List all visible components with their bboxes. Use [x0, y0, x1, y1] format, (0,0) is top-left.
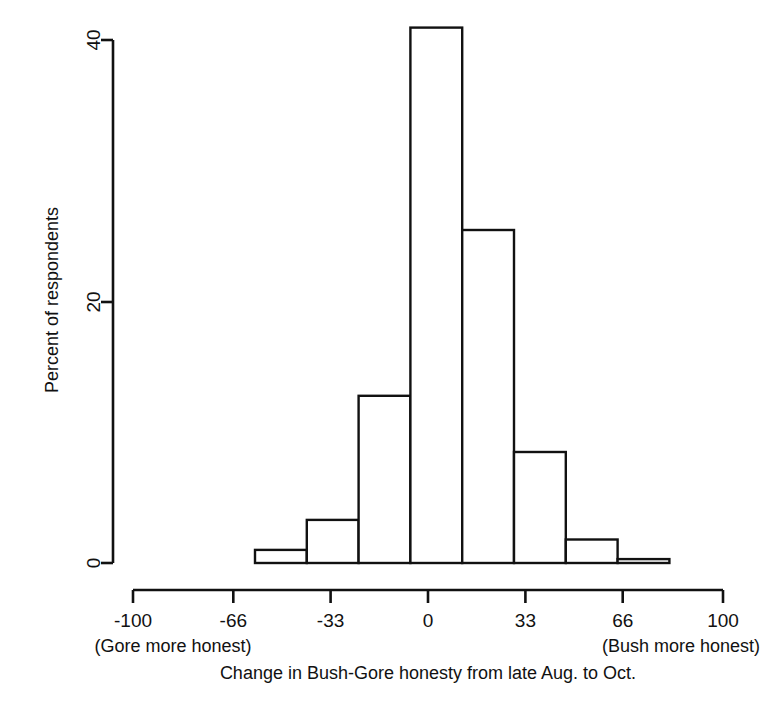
x-tick-label--66: -66: [220, 610, 247, 631]
x-tick-label-66: 66: [612, 610, 633, 631]
y-axis: 40 20 0 Percent of respondents: [42, 29, 113, 568]
histogram-bar: [462, 230, 514, 563]
x-axis-right-annotation: (Bush more honest): [602, 636, 760, 656]
x-tick-label-33: 33: [515, 610, 536, 631]
histogram-bars: [255, 28, 669, 563]
histogram-bar: [410, 28, 462, 563]
chart-canvas: 40 20 0 Percent of respondents: [0, 0, 779, 705]
histogram-figure: 40 20 0 Percent of respondents: [0, 0, 779, 705]
x-axis: -100 -66 -33 0 33 66 100 (Gore more hone…: [94, 590, 760, 683]
histogram-bar: [618, 559, 670, 563]
histogram-bar: [359, 396, 411, 563]
y-axis-title: Percent of respondents: [42, 207, 62, 393]
x-tick-label-100: 100: [707, 610, 739, 631]
x-axis-title: Change in Bush-Gore honesty from late Au…: [220, 663, 636, 683]
y-tick-label-20: 20: [83, 291, 104, 312]
x-axis-left-annotation: (Gore more honest): [94, 636, 251, 656]
y-tick-label-0: 0: [83, 558, 104, 569]
y-tick-label-40: 40: [83, 29, 104, 50]
histogram-bar: [255, 550, 307, 563]
histogram-bar: [566, 540, 618, 564]
x-tick-label-0: 0: [423, 610, 434, 631]
x-tick-label--33: -33: [317, 610, 344, 631]
histogram-bar: [307, 520, 359, 563]
histogram-bar: [514, 452, 566, 563]
x-tick-label--100: -100: [114, 610, 152, 631]
